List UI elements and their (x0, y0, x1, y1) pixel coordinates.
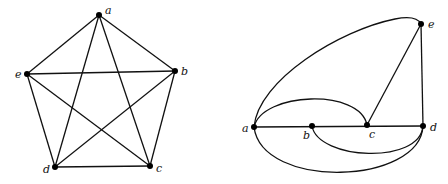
vertex-c (147, 163, 153, 169)
vertex-a (251, 124, 257, 130)
edge-a-e (254, 18, 421, 127)
edge-c-e (27, 74, 150, 166)
vertex-b (172, 68, 178, 74)
edge-a-c (254, 99, 367, 127)
edge-a-c (99, 15, 150, 166)
vertex-e (418, 21, 424, 27)
left-graph-edges (27, 15, 175, 167)
edge-b-e (27, 71, 175, 74)
edge-a-d (254, 126, 423, 127)
graph-figure: abcde abcde (0, 0, 448, 184)
vertex-label-a: a (242, 122, 249, 135)
edge-a-b (99, 15, 175, 71)
vertex-label-b: b (181, 65, 188, 78)
vertex-label-d: d (430, 121, 437, 134)
vertex-label-e: e (428, 18, 435, 31)
vertex-e (24, 71, 30, 77)
edge-b-c (150, 71, 175, 166)
vertex-label-c: c (156, 162, 162, 175)
right-graph-nodes: abcde (242, 18, 437, 142)
edge-a-e (27, 15, 99, 74)
vertex-label-e: e (15, 68, 22, 81)
edge-c-e (367, 24, 421, 125)
vertex-label-a: a (105, 4, 112, 17)
edge-d-e (27, 74, 55, 167)
right-graph-edges (254, 18, 423, 173)
vertex-label-c: c (369, 128, 375, 141)
left-graph-nodes: abcde (15, 4, 188, 176)
edge-b-d (55, 71, 175, 167)
edge-b-d (312, 126, 423, 153)
edge-e-d (421, 24, 423, 126)
vertex-label-b: b (303, 129, 310, 142)
vertex-a (96, 12, 102, 18)
vertex-d (420, 123, 426, 129)
edge-a-d (55, 15, 99, 167)
edge-c-d (55, 166, 150, 167)
vertex-label-d: d (43, 163, 50, 176)
vertex-d (52, 164, 58, 170)
